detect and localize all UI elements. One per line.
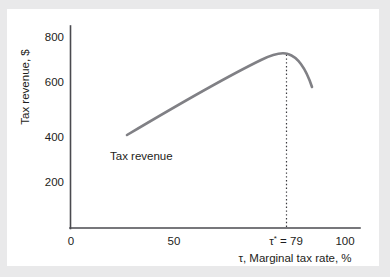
y-tick-label-400: 400 [45, 131, 64, 143]
x-tick-label-100: 100 [335, 235, 354, 247]
x-tick-label-0: 0 [68, 235, 74, 247]
laffer-curve-chart: 800 600 400 200 Tax revenue, $ 0 50 100 … [7, 9, 379, 266]
y-tick-label-600: 600 [45, 76, 64, 88]
x-tick-label-50: 50 [168, 235, 181, 247]
tau-star-value: = 79 [277, 235, 303, 247]
series-annotation-label: Tax revenue [110, 150, 173, 162]
y-axis-title: Tax revenue, $ [19, 49, 31, 125]
y-tick-label-800: 800 [45, 31, 64, 43]
x-axis-title: τ, Marginal tax rate, % [238, 252, 351, 264]
figure-card: 800 600 400 200 Tax revenue, $ 0 50 100 … [7, 9, 379, 266]
y-tick-label-200: 200 [45, 176, 64, 188]
